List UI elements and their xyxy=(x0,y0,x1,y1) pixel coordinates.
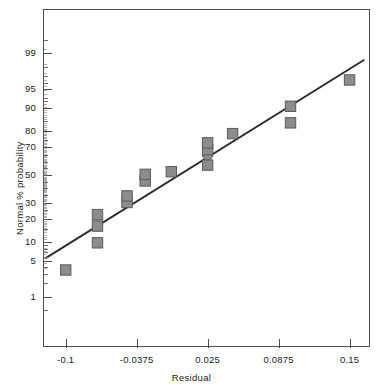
y-minor-tick xyxy=(43,223,47,224)
y-minor-tick xyxy=(43,178,47,179)
y-tick-label: 80 xyxy=(14,126,36,136)
data-point-square[interactable] xyxy=(92,209,102,219)
y-minor-tick xyxy=(43,104,47,105)
y-minor-tick xyxy=(43,183,47,184)
y-minor-tick xyxy=(43,242,47,243)
data-point-square[interactable] xyxy=(166,167,176,177)
y-minor-tick xyxy=(43,161,47,162)
x-tick-label: 0.0875 xyxy=(249,355,309,365)
y-minor-tick xyxy=(43,167,47,168)
y-tick-mark xyxy=(43,297,52,298)
y-minor-tick xyxy=(43,185,47,186)
y-minor-tick xyxy=(43,179,47,180)
y-minor-tick xyxy=(43,248,47,249)
y-minor-tick xyxy=(43,195,47,196)
data-point-square[interactable] xyxy=(140,169,150,179)
y-minor-tick xyxy=(43,125,47,126)
y-minor-tick xyxy=(43,121,47,122)
data-point-square[interactable] xyxy=(92,221,102,231)
y-minor-tick xyxy=(43,258,47,259)
y-minor-tick xyxy=(43,211,47,212)
y-minor-tick xyxy=(43,146,47,147)
y-minor-tick xyxy=(43,73,47,74)
x-tick-mark xyxy=(66,339,67,348)
data-point-square[interactable] xyxy=(344,75,354,85)
y-minor-tick xyxy=(43,165,47,166)
y-minor-tick xyxy=(43,210,47,211)
y-tick-label: 95 xyxy=(14,84,36,94)
data-point-square[interactable] xyxy=(285,101,295,111)
y-minor-tick xyxy=(43,252,48,253)
y-minor-tick xyxy=(43,157,47,158)
y-minor-tick xyxy=(43,140,47,141)
y-minor-tick xyxy=(43,187,47,188)
y-minor-tick xyxy=(43,216,47,217)
y-minor-tick xyxy=(43,184,47,185)
x-tick-label: -0.1 xyxy=(36,355,96,365)
y-tick-label: 90 xyxy=(14,103,36,113)
y-minor-tick xyxy=(43,199,47,200)
x-tick-label: 0.15 xyxy=(320,355,380,365)
y-minor-tick xyxy=(43,86,47,87)
y-minor-tick xyxy=(43,274,47,275)
y-minor-tick xyxy=(43,217,47,218)
y-minor-tick xyxy=(43,194,47,195)
y-minor-tick xyxy=(43,67,48,68)
y-minor-tick xyxy=(43,239,47,240)
y-minor-tick xyxy=(43,201,47,202)
data-point-square[interactable] xyxy=(122,191,132,201)
y-minor-tick xyxy=(43,254,47,255)
y-minor-tick xyxy=(43,40,48,41)
y-minor-tick xyxy=(43,237,47,238)
y-minor-tick xyxy=(43,107,47,108)
y-minor-tick xyxy=(43,147,47,148)
y-minor-tick xyxy=(43,151,47,152)
y-minor-tick xyxy=(43,130,47,131)
chart-canvas xyxy=(43,9,370,347)
y-minor-tick xyxy=(43,181,47,182)
y-minor-tick xyxy=(43,154,47,155)
y-minor-tick xyxy=(43,310,48,311)
data-point-square[interactable] xyxy=(227,128,237,138)
data-point-square[interactable] xyxy=(92,238,102,248)
y-minor-tick xyxy=(43,205,47,206)
x-tick-label: 0.025 xyxy=(178,355,238,365)
y-minor-tick xyxy=(43,207,47,208)
y-minor-tick xyxy=(43,119,47,120)
y-minor-tick xyxy=(43,214,47,215)
y-minor-tick xyxy=(43,251,47,252)
data-point-square[interactable] xyxy=(285,118,295,128)
y-minor-tick xyxy=(43,132,47,133)
y-minor-tick xyxy=(43,174,47,175)
y-minor-tick xyxy=(43,180,47,181)
y-minor-tick xyxy=(43,135,47,136)
y-minor-tick xyxy=(43,219,47,220)
y-minor-tick xyxy=(43,76,48,77)
data-point-square[interactable] xyxy=(202,138,212,148)
data-point-square[interactable] xyxy=(61,265,71,275)
y-minor-tick xyxy=(43,224,47,225)
y-minor-tick xyxy=(43,115,47,116)
y-minor-tick xyxy=(43,110,47,111)
y-minor-tick xyxy=(43,191,47,192)
y-minor-tick xyxy=(43,245,47,246)
y-minor-tick xyxy=(43,117,47,118)
y-minor-tick xyxy=(43,235,47,236)
y-minor-tick xyxy=(43,129,47,130)
x-tick-mark xyxy=(279,339,280,348)
y-minor-tick xyxy=(43,192,47,193)
y-minor-tick xyxy=(43,137,47,138)
y-minor-tick xyxy=(43,152,47,153)
y-minor-tick xyxy=(43,134,47,135)
y-minor-tick xyxy=(43,177,47,178)
data-point-square[interactable] xyxy=(202,160,212,170)
y-minor-tick xyxy=(43,155,47,156)
y-minor-tick xyxy=(43,249,48,250)
x-tick-mark xyxy=(137,339,138,348)
chart-container: 15102030507080909599 -0.1-0.03750.0250.0… xyxy=(0,0,383,391)
y-minor-tick xyxy=(43,166,47,167)
x-tick-mark xyxy=(208,339,209,348)
y-minor-tick xyxy=(43,83,48,84)
y-minor-tick xyxy=(43,150,47,151)
y-minor-tick xyxy=(43,148,47,149)
